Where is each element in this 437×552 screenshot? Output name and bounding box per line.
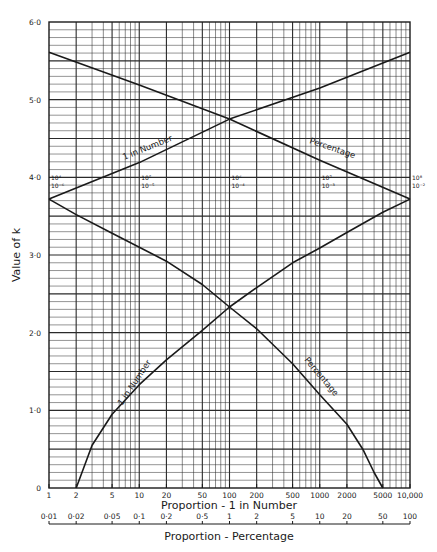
x-tick-label: 5 [110, 491, 115, 500]
y-tick-label: 1·0 [29, 406, 41, 415]
scale-marker-bottom: 10⁻³ [322, 182, 336, 189]
y-axis-ticks: 01·02·03·04·05·06·0 [29, 18, 41, 493]
x2-tick-label: 0·1 [133, 512, 145, 521]
x-tick-label: 1000 [310, 491, 329, 500]
scale-marker-top: 10⁴ [51, 174, 62, 181]
x2-tick-label: 10 [315, 512, 325, 521]
scale-marker-bottom: 10⁻⁵ [141, 182, 155, 189]
plot-grid [49, 22, 410, 488]
y-tick-label: 3·0 [29, 251, 41, 260]
x-tick-label: 1 [47, 491, 52, 500]
x-tick-label: 10 [134, 491, 144, 500]
label-lower-1-in-number: 1 in Number [115, 357, 153, 407]
x2-tick-label: 0·01 [41, 512, 58, 521]
y-axis-title: Value of k [10, 227, 23, 282]
scale-marker-bottom: 10⁻² [412, 182, 426, 189]
scale-marker-top: 10⁸ [412, 174, 423, 181]
label-lower-percentage: Percentage [302, 355, 340, 398]
secondary-x-axis: 0·010·020·050·10·20·5125102050100 [41, 512, 418, 524]
x-tick-label: 10,000 [397, 491, 423, 500]
y-tick-label: 2·0 [29, 329, 41, 338]
x-tick-label: 5000 [373, 491, 392, 500]
x-axis-title: Proportion - 1 in Number [161, 499, 297, 512]
scale-marker-bottom: 10⁻⁴ [232, 182, 246, 189]
y-tick-label: 0 [36, 484, 41, 493]
curve-lower-percentage [49, 199, 383, 488]
x-tick-label: 2000 [337, 491, 356, 500]
x2-axis-title: Proportion - Percentage [164, 530, 294, 543]
scale-marker-top: 10⁶ [232, 174, 243, 181]
x2-tick-label: 0·02 [68, 512, 85, 521]
x-tick-label: 2 [74, 491, 79, 500]
y-tick-label: 6·0 [29, 18, 41, 27]
x2-tick-label: 5 [290, 512, 295, 521]
y-tick-label: 4·0 [29, 173, 41, 182]
scale-marker-bottom: 10⁻⁶ [51, 182, 65, 189]
k-value-chart: 01·02·03·04·05·06·0 12510205010020050010… [0, 0, 437, 552]
x2-tick-label: 20 [342, 512, 352, 521]
x2-tick-label: 2 [254, 512, 259, 521]
scale-marker-top: 10⁷ [322, 174, 333, 181]
x2-tick-label: 0·5 [196, 512, 208, 521]
x2-tick-label: 1 [227, 512, 232, 521]
x2-tick-label: 0·05 [104, 512, 121, 521]
x2-tick-label: 0·2 [160, 512, 172, 521]
scale-marker-top: 10⁵ [141, 174, 152, 181]
y-tick-label: 5·0 [29, 96, 41, 105]
x2-tick-label: 100 [403, 512, 418, 521]
x2-tick-label: 50 [378, 512, 388, 521]
